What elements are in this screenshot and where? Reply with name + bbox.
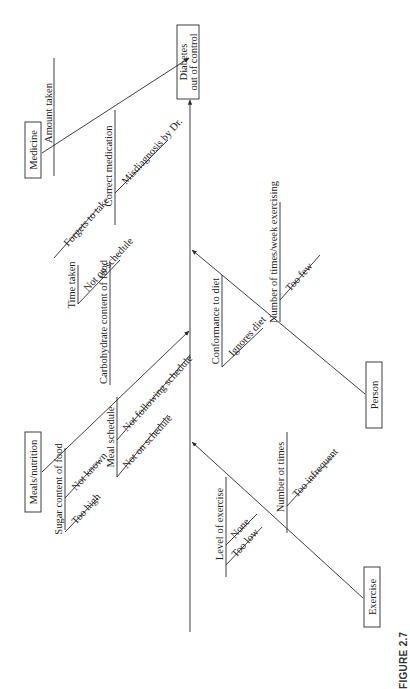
- person-label: Person: [369, 380, 380, 409]
- exercise-label: Exercise: [367, 579, 378, 615]
- figure-caption: FIGURE 2.7: [398, 631, 409, 689]
- carb-content-label: Carbohydrate content of food: [98, 259, 109, 384]
- amount-taken-label: Amount taken: [43, 82, 54, 143]
- effect-box: Diabetes out of control: [177, 25, 199, 99]
- too-infrequent-label: Too infrequent: [290, 446, 340, 499]
- meals-label: Meals/nutrition: [28, 439, 39, 504]
- times-week-label: Number of times/week exercising: [268, 180, 279, 323]
- effect-label-line2: out of control: [188, 33, 199, 90]
- number-times-label: Number ot times: [275, 442, 286, 513]
- conformance-label: Conformance to diet: [210, 278, 221, 364]
- correct-medication-label: Correct medication: [103, 125, 114, 207]
- medicine-label: Medicine: [28, 130, 39, 170]
- level-label: Level of exercise: [214, 488, 225, 561]
- time-taken-label: Time taken: [66, 261, 77, 309]
- ignores-diet-label: Ignores diet: [226, 314, 268, 358]
- too-high-label: Too high: [69, 491, 103, 527]
- misdiagnosis-label: Misdiagnosis by Dr.: [119, 116, 184, 186]
- category-meals: Meals/nutrition Carbohydrate content of …: [25, 259, 195, 534]
- category-exercise: Exercise Level of exercise None Too low …: [192, 432, 380, 627]
- not-known-label: Not known: [69, 450, 109, 493]
- fishbone-diagram: Diabetes out of control Medicine Amount …: [0, 0, 410, 689]
- sugar-content-label: Sugar content of food: [53, 443, 64, 535]
- too-few-label: Too few: [283, 260, 315, 293]
- category-person: Person Conformance to diet Ignores diet …: [192, 180, 382, 428]
- meal-schedule-label: Meal schedule: [105, 406, 116, 467]
